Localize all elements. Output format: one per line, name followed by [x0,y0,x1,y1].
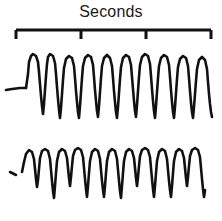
trace-upper [0,44,222,126]
trace-upper-waveform [26,54,212,118]
trace-lower-waveform [22,148,205,198]
scale-bar-geometry [16,30,211,39]
seconds-scale-bar [0,24,222,42]
recording-figure: Seconds [0,0,222,221]
trace-lower-lead-in [10,172,16,175]
scale-bar-label: Seconds [0,2,222,22]
trace-lower [0,128,222,208]
trace-upper-lead-in [6,88,26,90]
